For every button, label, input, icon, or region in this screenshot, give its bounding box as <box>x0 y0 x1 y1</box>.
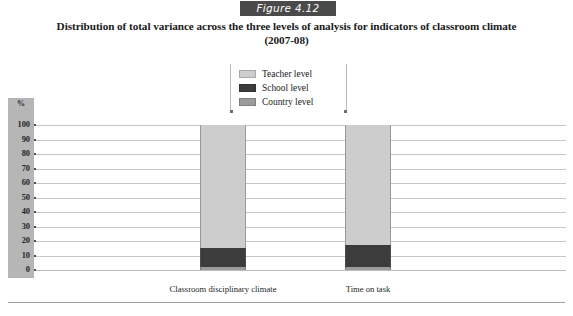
y-axis-tick-mark <box>34 153 36 155</box>
legend-item-teacher-level[interactable]: Teacher level <box>239 67 346 81</box>
y-axis-tick-label: 100 <box>6 121 30 129</box>
gridline <box>36 256 566 257</box>
gridline <box>36 154 566 155</box>
chart-title-line-2: (2007-08) <box>14 34 559 48</box>
gridline <box>36 241 566 242</box>
y-axis-tick-label: 10 <box>6 252 30 260</box>
y-axis-tick-mark <box>34 182 36 184</box>
y-axis-tick-label: 20 <box>6 237 30 245</box>
y-axis-tick-mark <box>34 255 36 257</box>
stacked-bar[interactable] <box>345 125 391 270</box>
gridline <box>36 198 566 199</box>
x-axis-category-label: Classroom disciplinary climate <box>148 284 298 295</box>
y-axis-tick-mark <box>34 197 36 199</box>
x-axis-category-label: Time on task <box>293 284 443 295</box>
y-axis-tick-mark <box>34 139 36 141</box>
gridline <box>36 227 566 228</box>
y-axis-tick-mark <box>34 226 36 228</box>
legend-item-label: Teacher level <box>262 69 312 79</box>
y-axis-tick-mark <box>34 211 36 213</box>
y-axis-tick-label: 60 <box>6 179 30 187</box>
gridline <box>36 212 566 213</box>
y-axis-tick-label: 30 <box>6 223 30 231</box>
legend-swatch-icon <box>239 70 256 78</box>
legend-item-label: School level <box>262 83 309 93</box>
y-axis-tick-mark <box>34 124 36 126</box>
stacked-bar[interactable] <box>200 125 246 270</box>
y-axis-tick-label: 80 <box>6 150 30 158</box>
y-axis-tick-mark <box>34 240 36 242</box>
legend-item-school-level[interactable]: School level <box>239 81 346 95</box>
x-axis-baseline <box>36 270 566 271</box>
chart-plot-area: % 1009080706050403020100 Classroom disci… <box>0 98 573 283</box>
gridline <box>36 183 566 184</box>
y-axis-tick-label: 50 <box>6 194 30 202</box>
y-axis-tick-label: 0 <box>6 266 30 274</box>
y-axis-unit-label: % <box>8 99 34 108</box>
footer-divider <box>8 302 565 303</box>
legend-swatch-icon <box>239 84 256 92</box>
chart-title-line-1: Distribution of total variance across th… <box>57 20 517 32</box>
bar-segment-teacher-level[interactable] <box>345 125 391 245</box>
y-axis-tick-label: 90 <box>6 136 30 144</box>
gridline <box>36 140 566 141</box>
figure-number-badge: Figure 4.12 <box>240 1 336 16</box>
bar-segment-school-level[interactable] <box>345 245 391 267</box>
bar-segment-teacher-level[interactable] <box>200 125 246 248</box>
y-axis-tick-label: 40 <box>6 208 30 216</box>
gridline <box>36 125 566 126</box>
gridline <box>36 169 566 170</box>
y-axis-tick-mark <box>34 168 36 170</box>
chart-title: Distribution of total variance across th… <box>14 20 559 47</box>
y-axis-tick-label: 70 <box>6 165 30 173</box>
bar-segment-school-level[interactable] <box>200 248 246 267</box>
